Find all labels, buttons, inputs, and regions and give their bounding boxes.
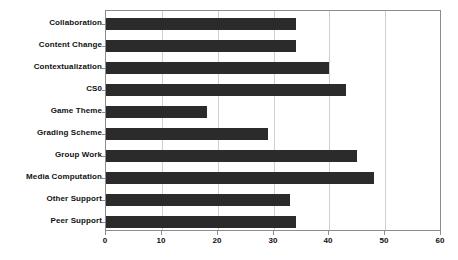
bar-row [106,189,440,211]
bar [106,172,374,184]
y-tick [102,24,106,25]
bar-row [106,35,440,57]
bar-row [106,123,440,145]
y-tick [102,178,106,179]
y-tick [102,90,106,91]
y-tick [102,222,106,223]
bar [106,194,290,206]
bar [106,150,357,162]
category-label: Group Work [2,144,102,166]
x-tick-mark [328,231,329,235]
y-tick [102,156,106,157]
x-tick-label: 40 [324,236,333,245]
bar [106,106,207,118]
category-label: Collaboration [2,12,102,34]
x-tick-label: 50 [380,236,389,245]
y-axis-labels: CollaborationContent ChangeContextualiza… [0,10,102,231]
bar [106,40,296,52]
category-label: Grading Scheme [2,122,102,144]
bar [106,216,296,228]
category-label: Media Computation [2,166,102,188]
x-tick-mark [217,231,218,235]
bar-row [106,79,440,101]
bar-chart: CollaborationContent ChangeContextualiza… [0,0,458,260]
x-tick-label: 10 [157,236,166,245]
bar [106,128,268,140]
category-label: Content Change [2,34,102,56]
bar [106,18,296,30]
plot-area [105,10,441,231]
x-tick-label: 20 [213,236,222,245]
category-label: Game Theme [2,100,102,122]
x-tick-label: 60 [436,236,445,245]
bar [106,84,346,96]
y-tick [102,112,106,113]
x-tick-label: 30 [269,236,278,245]
bar-row [106,57,440,79]
x-tick-label: 0 [103,236,107,245]
category-label: Contextualization [2,56,102,78]
y-tick [102,68,106,69]
y-tick [102,134,106,135]
x-tick-mark [161,231,162,235]
bar-row [106,167,440,189]
bar-row [106,13,440,35]
x-axis: 0102030405060 [105,231,441,259]
x-tick-mark [384,231,385,235]
category-label: CS0 [2,78,102,100]
bar-row [106,145,440,167]
category-label: Peer Support [2,210,102,232]
x-tick-mark [440,231,441,235]
x-tick-mark [105,231,106,235]
y-tick [102,200,106,201]
bar [106,62,329,74]
y-tick [102,46,106,47]
bar-row [106,101,440,123]
x-tick-mark [273,231,274,235]
category-label: Other Support [2,188,102,210]
bar-row [106,211,440,233]
